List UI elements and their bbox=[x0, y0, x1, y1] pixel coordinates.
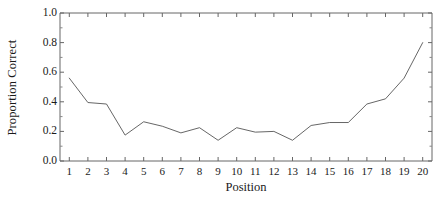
y-axis-minor-ticks bbox=[60, 28, 432, 146]
data-series-line bbox=[69, 43, 422, 141]
x-axis-ticks bbox=[69, 157, 422, 161]
plot-area bbox=[0, 0, 445, 202]
y-axis-ticks bbox=[60, 13, 432, 161]
x-axis-label: Position bbox=[60, 180, 432, 195]
axis-frame bbox=[60, 13, 432, 161]
x-axis-top-ticks bbox=[69, 13, 422, 17]
chart-figure: Proportion Correct 0.00.20.40.60.81.0 12… bbox=[0, 0, 445, 202]
